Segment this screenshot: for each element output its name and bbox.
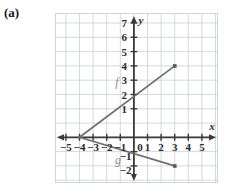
x-axis-label: x — [208, 120, 215, 132]
y-tick-label-4: 4 — [122, 60, 128, 72]
y-axis-label: y — [137, 14, 144, 26]
y-tick-label-2: 2 — [122, 89, 128, 101]
y-tick-label-5: 5 — [122, 46, 128, 58]
x-tick-label-3: 3 — [172, 141, 178, 153]
y-tick-label-neg1: −1 — [120, 150, 132, 162]
graph-svg: −5 −4 −3 −2 −1 0 1 2 3 4 5 7 6 5 4 3 2 1… — [55, 13, 218, 183]
coordinate-plane: −5 −4 −3 −2 −1 0 1 2 3 4 5 7 6 5 4 3 2 1… — [55, 13, 218, 183]
y-tick-label-3: 3 — [122, 74, 128, 86]
x-tick-label-neg2: −2 — [101, 141, 113, 153]
y-tick-label-1: 1 — [122, 103, 128, 115]
x-tick-label-neg4: −4 — [74, 141, 86, 153]
part-label: (a) — [4, 5, 19, 21]
x-tick-label-0: 0 — [137, 141, 143, 153]
function-f-endpoint-marker — [173, 64, 177, 68]
x-tick-label-neg3: −3 — [87, 141, 99, 153]
y-tick-label-7: 7 — [122, 17, 128, 29]
x-tick-label-4: 4 — [186, 141, 192, 153]
x-tick-label-2: 2 — [158, 141, 164, 153]
y-tick-label-6: 6 — [122, 31, 128, 43]
function-label-g: g — [115, 153, 121, 167]
y-tick-label-neg2: −2 — [120, 164, 132, 176]
function-g-endpoint-marker — [173, 164, 177, 168]
x-tick-label-neg5: −5 — [60, 141, 72, 153]
x-tick-label-1: 1 — [145, 141, 151, 153]
figure-panel: (a) — [0, 0, 230, 195]
x-tick-label-5: 5 — [199, 141, 205, 153]
